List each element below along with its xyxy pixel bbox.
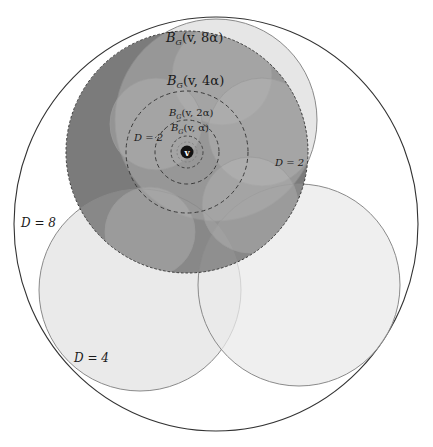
label-b8-main: B [165, 30, 176, 45]
label-b1-main: B [170, 122, 178, 133]
label-d2-right: D = 2 [274, 157, 304, 168]
label-b2-main: B [168, 107, 176, 118]
label-d2-left: D = 2 [133, 132, 163, 143]
label-b8-args: (v, 8α) [182, 30, 223, 45]
label-ball-8alpha: BG(v, 8α) [165, 30, 223, 47]
label-ball-4alpha: BG(v, 4α) [166, 73, 224, 90]
nested-balls-diagram: v BG(v, 8α) BG(v, 4α) BG(v, 2α) BG(v, α)… [0, 0, 433, 447]
label-b4-main: B [166, 73, 177, 88]
label-b2-args: (v, 2α) [182, 107, 214, 118]
label-b1-args: (v, α) [184, 122, 209, 133]
label-d8: D = 8 [20, 216, 56, 230]
point-v-label: v [183, 148, 190, 158]
label-b4-args: (v, 4α) [183, 73, 224, 88]
label-d4: D = 4 [73, 351, 109, 365]
